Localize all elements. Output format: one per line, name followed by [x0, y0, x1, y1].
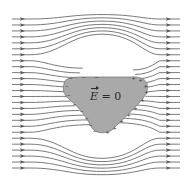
field-line	[12, 61, 180, 70]
positive-charge-icon: +	[120, 118, 124, 124]
field-line	[12, 34, 180, 55]
equals-zero-text: = 0	[98, 90, 121, 103]
positive-charge-icon: +	[113, 125, 117, 131]
field-line	[12, 28, 180, 43]
field-line	[12, 162, 180, 171]
positive-charge-icon: +	[139, 77, 143, 83]
negative-charge-icon: −	[95, 74, 99, 80]
positive-charge-icon: +	[134, 105, 138, 111]
positive-charge-icon: +	[127, 112, 131, 118]
positive-charge-icon: +	[141, 97, 145, 103]
negative-charge-icon: −	[73, 101, 77, 107]
negative-charge-icon: −	[82, 74, 86, 80]
field-line	[12, 21, 180, 31]
field-line	[12, 31, 180, 49]
field-line	[12, 138, 180, 158]
positive-charge-icon: +	[145, 89, 149, 95]
negative-charge-icon: −	[65, 83, 69, 89]
negative-charge-icon: −	[93, 128, 97, 134]
negative-charge-icon: −	[85, 115, 89, 121]
positive-charge-icon: +	[132, 75, 136, 81]
negative-charge-icon: −	[69, 75, 73, 81]
negative-charge-icon: −	[67, 92, 71, 98]
negative-charge-icon: −	[80, 108, 84, 114]
field-line	[12, 144, 180, 161]
vector-e-symbol: E	[90, 90, 98, 103]
positive-charge-icon: +	[106, 129, 110, 135]
field-zero-label: E = 0	[90, 90, 121, 103]
